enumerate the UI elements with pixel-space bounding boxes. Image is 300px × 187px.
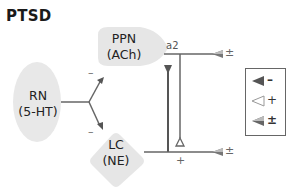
lc-name: LC [92, 137, 140, 153]
legend-item-mixed: ± [246, 112, 285, 132]
rn-node: RN (5-HT) [13, 88, 63, 120]
rn-to-lc-sign: – [88, 125, 94, 138]
half-filled-arrowhead-icon [248, 112, 268, 132]
lc-node: LC (NE) [92, 137, 140, 169]
filled-arrowhead-icon [248, 72, 268, 92]
lc-output-sign: ± [225, 144, 234, 157]
rn-transmitter: (5-HT) [13, 104, 63, 120]
rn-name: RN [13, 88, 63, 104]
rn-to-ppn-line [89, 80, 101, 102]
legend-label: ± [267, 113, 277, 127]
rn-to-lc-line [89, 102, 100, 126]
legend: – + ± [245, 68, 286, 136]
legend-label: – [267, 73, 273, 87]
legend-item-inhibitory: – [246, 72, 285, 92]
rn-to-ppn-arrowhead-icon [97, 77, 104, 84]
lc-to-ppn-sign: + [176, 154, 185, 167]
ppn-transmitter: (ACh) [100, 47, 148, 63]
a2-receptor-label: a2 [166, 40, 179, 51]
legend-item-excitatory: + [246, 92, 285, 112]
ppn-name: PPN [100, 31, 148, 47]
lc-transmitter: (NE) [92, 153, 140, 169]
filled-arrowhead-icon [164, 65, 172, 74]
rn-to-ppn-sign: – [88, 66, 94, 79]
ppn-node: PPN (ACh) [100, 31, 148, 63]
legend-label: + [267, 93, 277, 107]
open-arrowhead-icon [248, 92, 268, 112]
ppn-output-sign: ± [225, 46, 234, 59]
open-arrowhead-icon [176, 138, 184, 146]
